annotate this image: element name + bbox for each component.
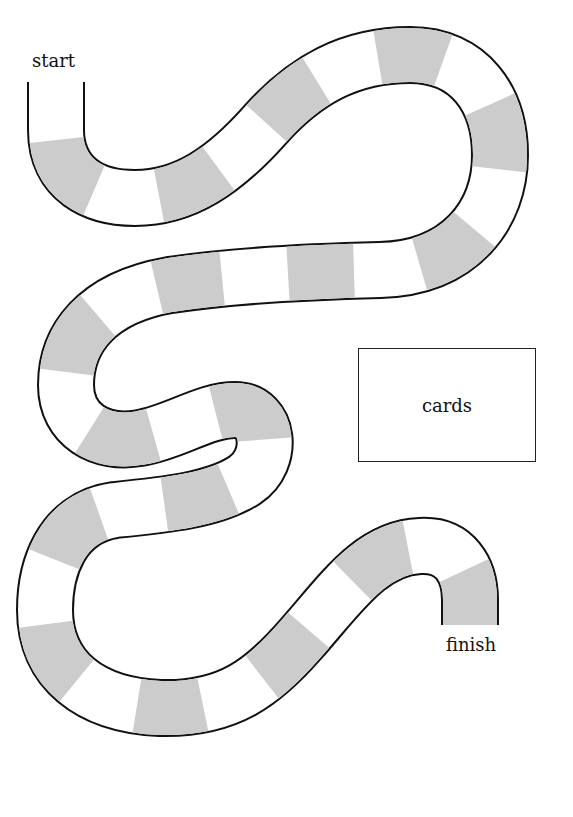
cards-pile-area[interactable]: cards xyxy=(358,348,536,462)
start-label: start xyxy=(32,52,75,70)
cards-label: cards xyxy=(422,395,472,416)
finish-label: finish xyxy=(446,636,496,654)
